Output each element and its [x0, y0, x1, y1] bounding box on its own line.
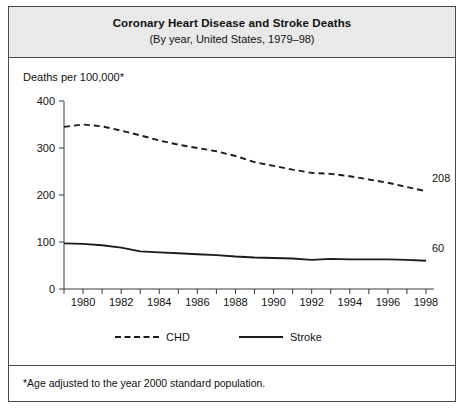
footnote-band: *Age adjusted to the year 2000 standard …	[9, 365, 455, 401]
series-end-label-stroke: 60	[432, 242, 444, 254]
x-axis-tick-label: 1992	[299, 296, 323, 308]
legend-solid-line-icon	[239, 336, 283, 338]
x-axis-tick-label: 1994	[338, 296, 362, 308]
x-axis-tick-label: 1988	[223, 296, 247, 308]
x-axis-tick-label: 1982	[109, 296, 133, 308]
y-axis-tick-label: 0	[49, 283, 55, 295]
legend-item-stroke: Stroke	[239, 331, 322, 343]
y-axis-tick-label: 300	[37, 142, 55, 154]
series-line-chd	[64, 125, 426, 192]
x-axis-tick-label: 1986	[185, 296, 209, 308]
series-end-label-chd: 208	[432, 172, 450, 184]
x-axis-tick-label: 1990	[261, 296, 285, 308]
x-axis-tick-label: 1998	[414, 296, 438, 308]
chart-footnote: *Age adjusted to the year 2000 standard …	[23, 377, 265, 389]
legend-dashed-line-icon	[115, 336, 159, 338]
chart-figure: Coronary Heart Disease and Stroke Deaths…	[0, 0, 464, 413]
chart-frame: Coronary Heart Disease and Stroke Deaths…	[8, 6, 456, 402]
series-line-stroke	[64, 243, 426, 260]
legend-label-chd: CHD	[166, 331, 190, 343]
y-axis-tick-label: 400	[37, 95, 55, 107]
y-axis-tick-label: 200	[37, 189, 55, 201]
x-axis-tick-label: 1980	[71, 296, 95, 308]
chart-legend: CHD Stroke	[9, 331, 455, 355]
legend-item-chd: CHD	[115, 331, 190, 343]
x-axis-tick-label: 1996	[376, 296, 400, 308]
y-axis-tick-label: 100	[37, 236, 55, 248]
legend-label-stroke: Stroke	[290, 331, 322, 343]
x-axis-tick-label: 1984	[147, 296, 171, 308]
